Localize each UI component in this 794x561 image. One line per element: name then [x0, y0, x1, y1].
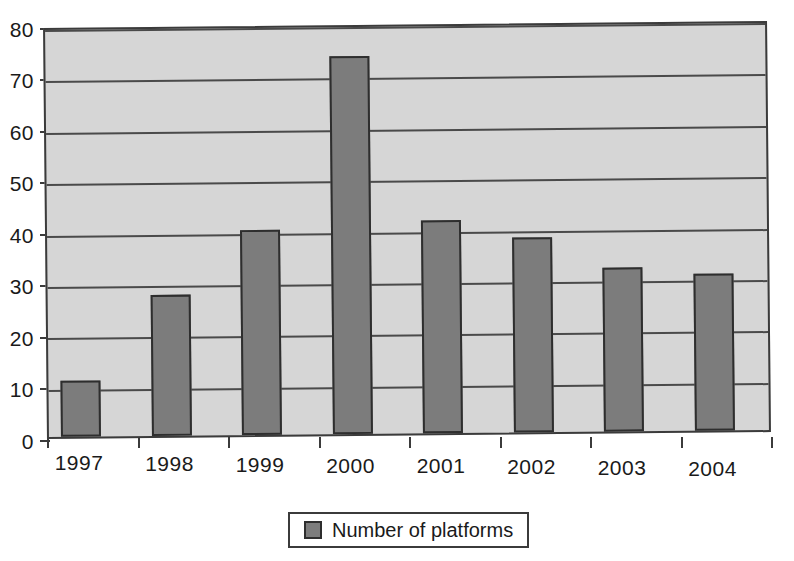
- y-tick-label: 20: [10, 327, 34, 348]
- y-axis: 01020304050607080: [0, 28, 42, 439]
- plot-area-skew: [43, 21, 771, 439]
- x-tick-label: 1998: [145, 453, 194, 474]
- x-tick-label: 1997: [55, 452, 104, 473]
- x-tick-mark: [47, 437, 49, 448]
- x-tick-mark: [138, 437, 140, 448]
- x-tick-mark: [228, 437, 230, 448]
- x-tick-mark: [319, 437, 321, 448]
- y-tick-label: 40: [10, 224, 34, 245]
- x-tick-label: 2002: [507, 456, 556, 477]
- bar: [329, 56, 373, 434]
- y-tick-label: 30: [10, 276, 34, 297]
- y-tick-label: 60: [10, 121, 34, 142]
- x-axis: 19971998199920002001200220032004: [47, 452, 771, 486]
- bar: [421, 220, 463, 434]
- x-tick-label: 1999: [236, 454, 285, 475]
- plot-area: [43, 21, 771, 439]
- bar: [240, 229, 282, 435]
- y-tick-label: 70: [10, 70, 34, 91]
- x-axis-ticks: [47, 437, 771, 449]
- x-tick-mark: [681, 437, 683, 448]
- y-tick-label: 0: [22, 431, 34, 452]
- x-tick-label: 2001: [417, 455, 466, 476]
- x-tick-mark: [500, 437, 502, 448]
- bar: [693, 274, 735, 431]
- bar: [512, 237, 554, 433]
- bar: [60, 380, 101, 437]
- y-tick-label: 50: [10, 173, 34, 194]
- chart-legend: Number of platforms: [288, 512, 529, 548]
- bars-layer: [45, 23, 769, 437]
- legend-color-swatch: [304, 521, 322, 539]
- x-tick-label: 2000: [326, 455, 375, 476]
- x-tick-mark: [409, 437, 411, 448]
- legend-label: Number of platforms: [332, 520, 513, 540]
- bar-chart-figure: 01020304050607080 1997199819992000200120…: [0, 0, 794, 561]
- y-tick-label: 10: [10, 379, 34, 400]
- y-tick-label: 80: [10, 18, 34, 39]
- x-tick-label: 2003: [598, 457, 647, 478]
- x-tick-label: 2004: [688, 458, 737, 479]
- bar: [602, 267, 644, 432]
- bar: [150, 294, 191, 436]
- x-tick-mark: [771, 437, 773, 448]
- x-tick-mark: [590, 437, 592, 448]
- plot-area-wrapper: [47, 28, 771, 439]
